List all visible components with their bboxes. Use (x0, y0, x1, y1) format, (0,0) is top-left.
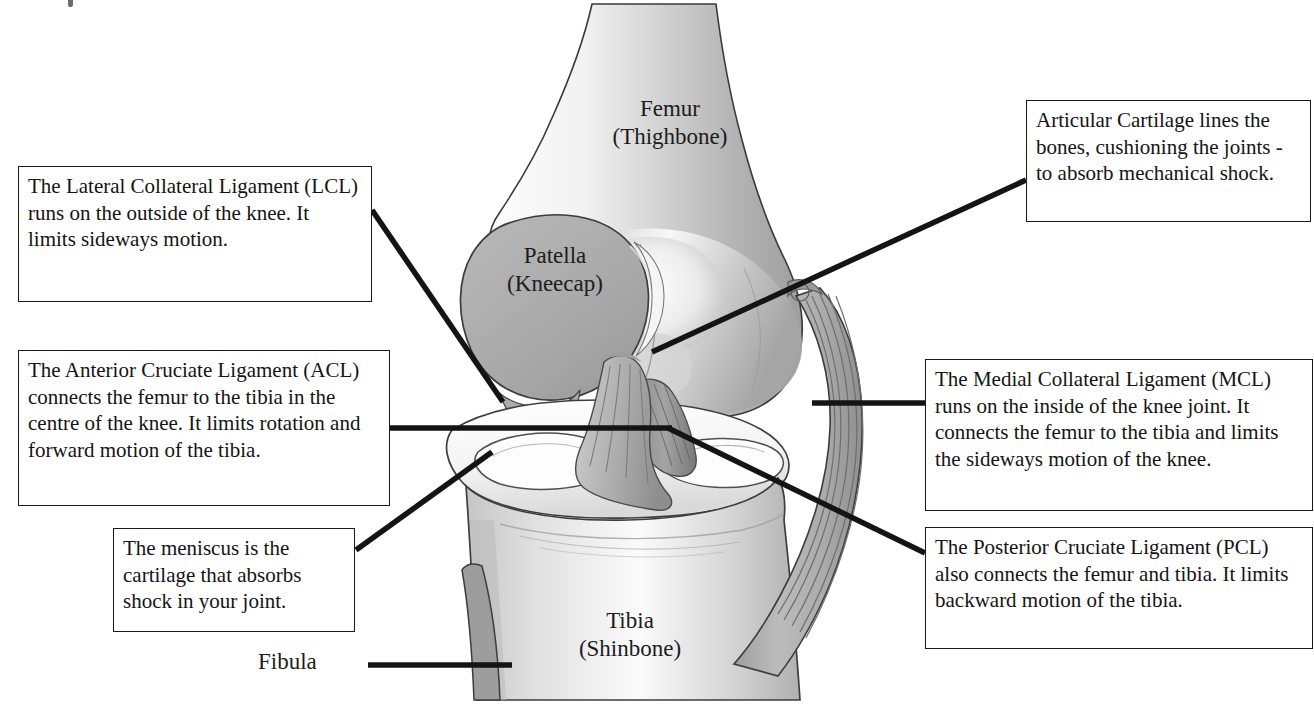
bone-label-femur-line2: (Thighbone) (590, 123, 750, 151)
callout-meniscus: The meniscus is the cartilage that absor… (113, 528, 355, 632)
bone-label-femur-line1: Femur (640, 96, 700, 121)
bone-label-fibula-line1: Fibula (258, 649, 317, 674)
bone-label-tibia-line1: Tibia (606, 608, 654, 633)
callout-pcl: The Posterior Cruciate Ligament (PCL) al… (925, 527, 1313, 649)
knee-anatomy-diagram: The Lateral Collateral Ligament (LCL) ru… (0, 0, 1314, 705)
bone-label-tibia-line2: (Shinbone) (545, 635, 715, 663)
bone-label-patella-line2: (Kneecap) (480, 270, 630, 298)
bone-label-tibia: Tibia (Shinbone) (545, 607, 715, 663)
bone-label-patella-line1: Patella (524, 243, 587, 268)
callout-articular-cartilage: Articular Cartilage lines the bones, cus… (1026, 100, 1311, 222)
scan-artifact-mark (68, 0, 73, 7)
callout-mcl: The Medial Collateral Ligament (MCL) run… (925, 359, 1313, 511)
bone-label-fibula: Fibula (258, 648, 368, 676)
callout-acl: The Anterior Cruciate Ligament (ACL) con… (18, 350, 390, 506)
bone-label-patella: Patella (Kneecap) (480, 242, 630, 298)
callout-lcl: The Lateral Collateral Ligament (LCL) ru… (18, 166, 372, 302)
bone-label-femur: Femur (Thighbone) (590, 95, 750, 151)
